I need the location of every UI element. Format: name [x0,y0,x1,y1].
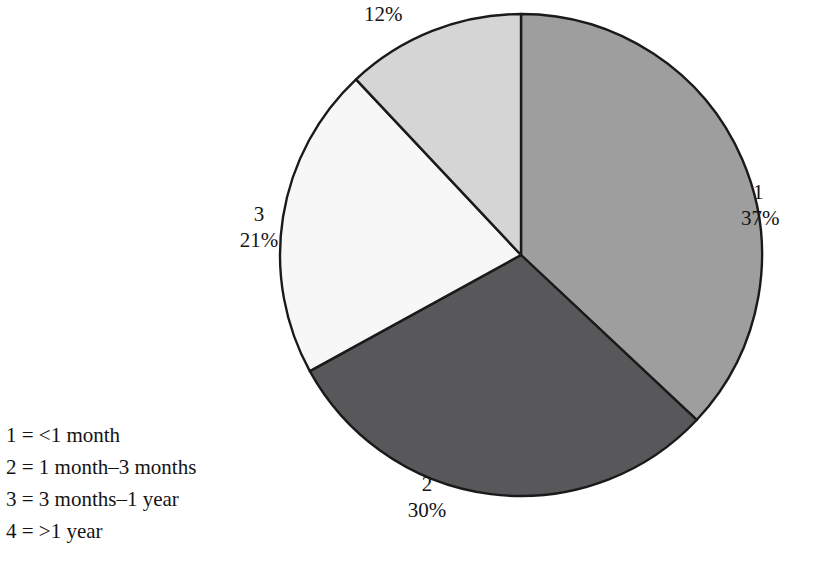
slice-label-2: 2 30% [382,472,472,523]
slice-label-4-percent: 12% [364,2,444,28]
pie-slice-group [280,14,762,496]
slice-label-1-percent: 37% [741,206,780,232]
legend: 1 = <1 month 2 = 1 month–3 months 3 = 3 … [6,420,196,548]
legend-item: 1 = <1 month [6,420,196,452]
slice-label-3: 3 21% [216,202,302,253]
slice-label-1: 1 37% [741,180,780,231]
legend-item: 3 = 3 months–1 year [6,484,196,516]
slice-label-1-key: 1 [741,180,780,206]
legend-item: 2 = 1 month–3 months [6,452,196,484]
slice-label-3-key: 3 [216,202,302,228]
slice-label-2-percent: 30% [382,498,472,524]
slice-label-4: 12% [364,2,444,28]
pie-chart-figure: 1 37% 2 30% 3 21% 12% 1 = <1 month 2 = 1… [0,0,832,572]
legend-item: 4 = >1 year [6,516,196,548]
slice-label-3-percent: 21% [216,228,302,254]
slice-label-2-key: 2 [382,472,472,498]
